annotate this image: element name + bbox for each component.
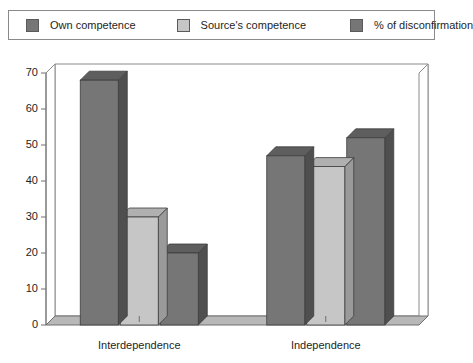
x-tick-label: Interdependence xyxy=(98,340,181,351)
x-tick-label: Independence xyxy=(291,340,361,351)
